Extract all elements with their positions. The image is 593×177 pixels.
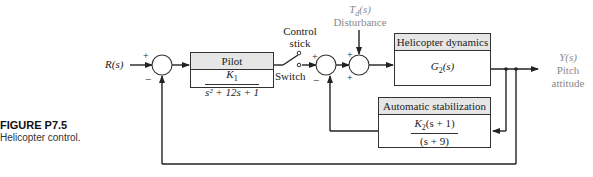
stabilization-block-title: Automatic stabilization	[379, 98, 490, 115]
control-stick-label: Control stick	[283, 25, 317, 49]
helicopter-dynamics-block: Helicopter dynamics G2(s)	[394, 33, 491, 86]
sum1-plus-sign: +	[143, 50, 149, 61]
stabilization-transfer-function: K2(s + 1) (s + 9)	[379, 115, 490, 147]
figure-caption: Helicopter control.	[0, 132, 81, 143]
helicopter-block-title: Helicopter dynamics	[395, 34, 490, 51]
sum3-plus-bottom-sign: +	[347, 72, 353, 83]
figure-label: FIGURE P7.5	[0, 119, 67, 131]
switch-label: Switch	[275, 70, 306, 82]
pilot-transfer-function: K1 s² + 12s + 1	[190, 68, 274, 98]
disturbance-label: Td(s) Disturbance	[330, 3, 390, 28]
sum3-plus-top-sign: +	[347, 49, 353, 60]
sum2-minus-sign: −	[313, 74, 319, 86]
pilot-numerator: K	[226, 68, 233, 80]
output-label: Y(s) Pitch attitude	[543, 51, 593, 90]
automatic-stabilization-block: Automatic stabilization K2(s + 1) (s + 9…	[378, 97, 491, 148]
sum-junction-1	[152, 55, 172, 75]
helicopter-transfer-function: G2(s)	[395, 51, 490, 86]
sum2-plus-sign: +	[312, 51, 318, 62]
pilot-denominator: s² + 12s + 1	[205, 86, 259, 98]
sum1-minus-sign: −	[145, 73, 151, 85]
sum-junction-2	[316, 55, 336, 75]
input-label: R(s)	[105, 58, 123, 70]
